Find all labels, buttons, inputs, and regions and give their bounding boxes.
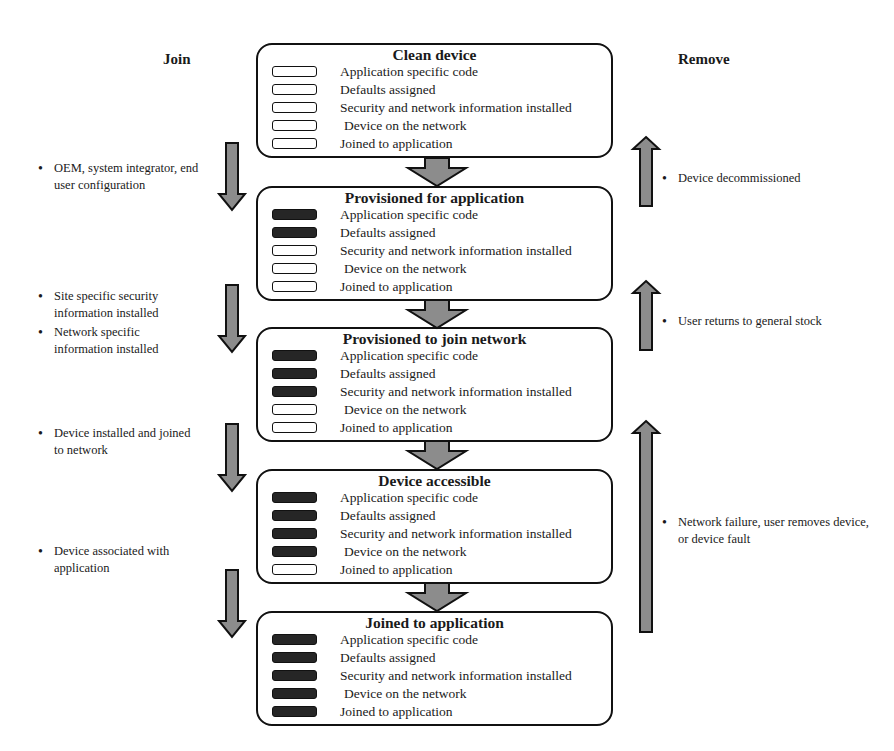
remove-note: • Network failure, user removes device, … bbox=[678, 514, 878, 548]
state-row: Defaults assigned bbox=[258, 649, 611, 667]
state-title: Joined to application bbox=[258, 614, 611, 631]
remove-column-title: Remove bbox=[678, 51, 730, 68]
state-row-label: Joined to application bbox=[340, 135, 452, 153]
join-note: • OEM, system integrator, end user confi… bbox=[54, 160, 214, 194]
state-row: Device on the network bbox=[258, 401, 611, 419]
status-indicator-filled bbox=[272, 670, 317, 681]
state-row-label: Security and network information install… bbox=[340, 525, 572, 543]
bullet-icon: • bbox=[38, 425, 43, 442]
state-row-label: Application specific code bbox=[340, 631, 478, 649]
state-box-provisioned-to-join-network: Provisioned to join network Application … bbox=[256, 327, 613, 442]
join-arrow-down-icon bbox=[218, 142, 246, 212]
state-row-label: Application specific code bbox=[340, 347, 478, 365]
join-note: • Device installed and joined to network bbox=[54, 425, 194, 459]
join-note: • Network specific information installed bbox=[54, 324, 194, 358]
join-column-title: Join bbox=[163, 51, 191, 68]
state-row-label: Security and network information install… bbox=[340, 383, 572, 401]
state-row: Security and network information install… bbox=[258, 383, 611, 401]
state-row: Application specific code bbox=[258, 63, 611, 81]
state-row: Device on the network bbox=[258, 260, 611, 278]
state-row: Application specific code bbox=[258, 489, 611, 507]
status-indicator-empty bbox=[272, 263, 317, 274]
join-note-text: Site specific security information insta… bbox=[54, 289, 159, 320]
state-row: Defaults assigned bbox=[258, 507, 611, 525]
state-title: Provisioned for application bbox=[258, 189, 611, 206]
remove-arrow-up-icon bbox=[632, 280, 660, 352]
state-row: Defaults assigned bbox=[258, 224, 611, 242]
state-row: Application specific code bbox=[258, 206, 611, 224]
state-row: Security and network information install… bbox=[258, 525, 611, 543]
state-row: Device on the network bbox=[258, 685, 611, 703]
join-note: • Device associated with application bbox=[54, 543, 174, 577]
bullet-icon: • bbox=[662, 514, 667, 531]
state-row: Joined to application bbox=[258, 419, 611, 437]
bullet-icon: • bbox=[662, 170, 667, 187]
status-indicator-empty bbox=[272, 138, 317, 149]
bullet-icon: • bbox=[38, 324, 43, 341]
status-indicator-filled bbox=[272, 492, 317, 503]
status-indicator-empty bbox=[272, 245, 317, 256]
join-note-text: OEM, system integrator, end user configu… bbox=[54, 161, 198, 192]
state-row-label: Joined to application bbox=[340, 561, 452, 579]
remove-arrow-up-icon bbox=[632, 136, 660, 208]
state-row: Device on the network bbox=[258, 117, 611, 135]
state-row-label: Security and network information install… bbox=[340, 667, 572, 685]
state-title: Device accessible bbox=[258, 472, 611, 489]
status-indicator-filled bbox=[272, 528, 317, 539]
status-indicator-empty bbox=[272, 422, 317, 433]
status-indicator-filled bbox=[272, 652, 317, 663]
remove-note-text: Device decommissioned bbox=[678, 171, 801, 185]
state-row: Security and network information install… bbox=[258, 242, 611, 260]
bullet-icon: • bbox=[662, 313, 667, 330]
state-row: Joined to application bbox=[258, 278, 611, 296]
remove-note: • User returns to general stock bbox=[678, 313, 888, 330]
join-arrow-down-icon bbox=[218, 284, 246, 354]
status-indicator-empty bbox=[272, 66, 317, 77]
remove-note-text: User returns to general stock bbox=[678, 314, 822, 328]
join-note: • Site specific security information ins… bbox=[54, 288, 204, 322]
state-box-device-accessible: Device accessible Application specific c… bbox=[256, 469, 613, 584]
state-row: Joined to application bbox=[258, 703, 611, 721]
state-row: Application specific code bbox=[258, 631, 611, 649]
state-row-label: Defaults assigned bbox=[340, 224, 436, 242]
remove-note-text: Network failure, user removes device, or… bbox=[678, 515, 869, 546]
status-indicator-filled bbox=[272, 510, 317, 521]
status-indicator-filled bbox=[272, 350, 317, 361]
state-row-label: Joined to application bbox=[340, 703, 452, 721]
status-indicator-empty bbox=[272, 404, 317, 415]
state-row-label: Security and network information install… bbox=[340, 242, 572, 260]
status-indicator-filled bbox=[272, 209, 317, 220]
state-row-label: Device on the network bbox=[344, 117, 467, 135]
state-row: Joined to application bbox=[258, 135, 611, 153]
state-row-label: Device on the network bbox=[344, 685, 467, 703]
state-row-label: Joined to application bbox=[340, 278, 452, 296]
state-title: Clean device bbox=[258, 46, 611, 63]
state-row: Defaults assigned bbox=[258, 81, 611, 99]
state-row: Joined to application bbox=[258, 561, 611, 579]
remove-note: • Device decommissioned bbox=[678, 170, 878, 187]
transition-arrow-down-icon bbox=[404, 441, 470, 471]
transition-arrow-down-icon bbox=[404, 158, 470, 188]
state-title: Provisioned to join network bbox=[258, 330, 611, 347]
state-row: Security and network information install… bbox=[258, 667, 611, 685]
state-row-label: Device on the network bbox=[344, 543, 467, 561]
state-row-label: Joined to application bbox=[340, 419, 452, 437]
join-note-text: Network specific information installed bbox=[54, 325, 159, 356]
status-indicator-filled bbox=[272, 368, 317, 379]
status-indicator-filled bbox=[272, 706, 317, 717]
status-indicator-filled bbox=[272, 546, 317, 557]
join-note-text: Device associated with application bbox=[54, 544, 169, 575]
state-row: Device on the network bbox=[258, 543, 611, 561]
state-box-joined-to-application: Joined to application Application specif… bbox=[256, 611, 613, 726]
bullet-icon: • bbox=[38, 543, 43, 560]
state-row: Security and network information install… bbox=[258, 99, 611, 117]
state-row-label: Application specific code bbox=[340, 206, 478, 224]
status-indicator-filled bbox=[272, 688, 317, 699]
state-row-label: Defaults assigned bbox=[340, 649, 436, 667]
state-row-label: Defaults assigned bbox=[340, 507, 436, 525]
join-note-text: Device installed and joined to network bbox=[54, 426, 190, 457]
state-row: Application specific code bbox=[258, 347, 611, 365]
status-indicator-empty bbox=[272, 281, 317, 292]
status-indicator-empty bbox=[272, 102, 317, 113]
state-row: Defaults assigned bbox=[258, 365, 611, 383]
